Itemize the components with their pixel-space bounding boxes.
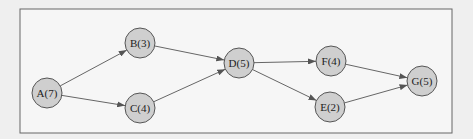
- node-label: E(2): [320, 101, 340, 114]
- node-f: F(4): [316, 46, 346, 76]
- node-b: B(3): [125, 28, 155, 58]
- node-label: D(5): [229, 57, 250, 70]
- node-label: G(5): [412, 75, 433, 88]
- node-g: G(5): [407, 66, 437, 96]
- node-label: A(7): [37, 87, 58, 100]
- network-diagram: A(7)B(3)C(4)D(5)F(4)E(2)G(5): [0, 0, 473, 139]
- node-label: F(4): [322, 55, 341, 68]
- node-d: D(5): [224, 48, 254, 78]
- node-e: E(2): [315, 92, 345, 122]
- node-label: C(4): [130, 102, 151, 115]
- node-a: A(7): [32, 78, 62, 108]
- node-label: B(3): [130, 37, 151, 50]
- node-c: C(4): [125, 93, 155, 123]
